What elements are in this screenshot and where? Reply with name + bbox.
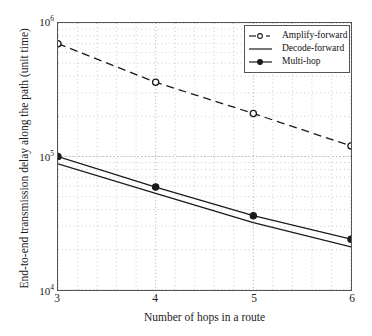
legend-label: Decode-forward: [282, 44, 344, 54]
chart-figure: 106 105 104 3 4 5 6 Number of hops in a …: [0, 0, 372, 336]
data-point-marker: [58, 41, 61, 47]
y-tick-exponent: 5: [50, 149, 54, 158]
x-axis-tick-4: 4: [143, 293, 167, 305]
data-point-marker: [153, 184, 159, 190]
y-axis-title: End-to-end transmission delay along the …: [18, 13, 31, 303]
series-line-decode-forward: [58, 164, 351, 247]
y-axis-tick-1e5: 105: [39, 152, 54, 163]
x-axis-tick-3: 3: [45, 293, 69, 305]
data-point-marker: [250, 110, 256, 116]
y-tick-exponent: 4: [50, 283, 54, 292]
legend-swatch-solid-line: [248, 43, 278, 55]
data-point-marker: [348, 143, 351, 149]
y-tick-exponent: 6: [50, 14, 54, 23]
legend-label: Multi-hop: [282, 57, 321, 67]
legend: Amplify-forward Decode-forward Multi-hop: [244, 25, 350, 73]
x-axis-tick-5: 5: [242, 293, 266, 305]
legend-swatch-dashed-circle-open: [248, 30, 278, 42]
legend-item-multi-hop: Multi-hop: [248, 56, 345, 68]
x-axis-tick-6: 6: [340, 293, 364, 305]
data-point-marker: [250, 213, 256, 219]
data-point-marker: [58, 153, 61, 159]
legend-swatch-solid-circle-filled: [248, 56, 278, 68]
legend-item-amplify-forward: Amplify-forward: [248, 30, 345, 42]
y-axis-tick-1e6: 106: [39, 17, 54, 28]
legend-label: Amplify-forward: [282, 31, 347, 41]
legend-item-decode-forward: Decode-forward: [248, 43, 345, 55]
series-line-multi-hop: [58, 157, 351, 240]
data-point-marker: [348, 236, 351, 242]
x-axis-title: Number of hops in a route: [57, 311, 352, 324]
data-point-marker: [153, 79, 159, 85]
y-tick-mantissa: 10: [39, 151, 50, 163]
y-tick-mantissa: 10: [39, 16, 50, 28]
